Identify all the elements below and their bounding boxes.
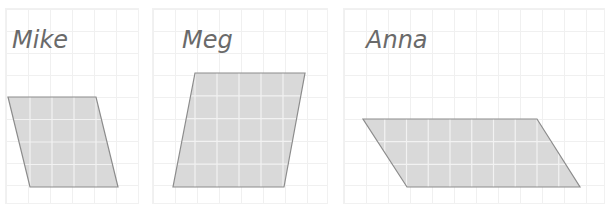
parallelogram-mike (0, 97, 123, 187)
parallelograms-canvas (0, 0, 615, 209)
